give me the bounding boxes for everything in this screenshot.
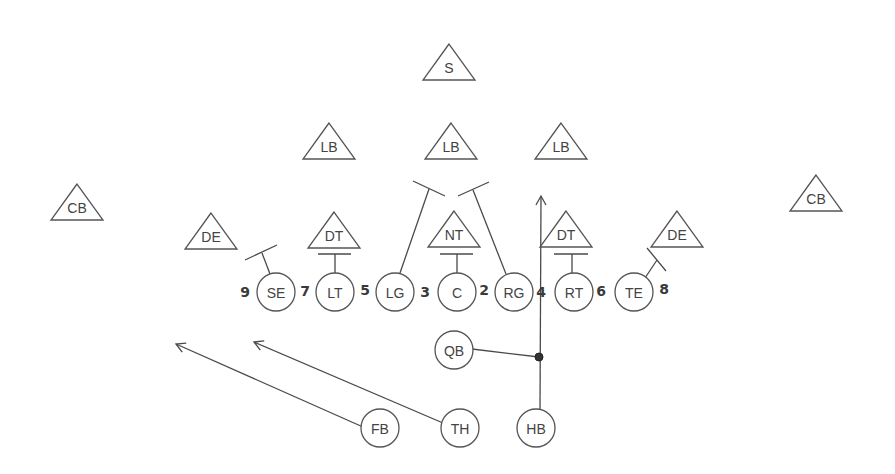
offense-players: SELTLGCRGRTTEQBFBTHHB xyxy=(257,273,653,447)
qb-handoff-line xyxy=(472,349,539,357)
player-hb: HB xyxy=(517,409,555,447)
hole-number: 5 xyxy=(360,282,370,298)
player-label: RT xyxy=(565,285,584,301)
defender-label: CB xyxy=(806,191,825,207)
player-lg: LG xyxy=(376,273,414,311)
player-fb: FB xyxy=(361,409,399,447)
lg-block-line xyxy=(400,189,429,273)
player-qb: QB xyxy=(435,331,473,369)
defender-label: S xyxy=(444,60,453,76)
defender-label: LB xyxy=(442,139,459,155)
player-se: SE xyxy=(257,273,295,311)
hole-number: 8 xyxy=(659,281,669,297)
defender-cb-left: CB xyxy=(51,184,103,220)
player-label: TH xyxy=(451,421,470,437)
handoff-point xyxy=(535,353,543,361)
assignment-lines xyxy=(176,181,666,427)
defender-label: LB xyxy=(320,139,337,155)
player-label: LG xyxy=(386,285,405,301)
player-rt: RT xyxy=(555,273,593,311)
hb-route-arrow xyxy=(540,196,541,410)
defender-label: DE xyxy=(201,229,220,245)
defender-label: DT xyxy=(325,228,344,244)
defense-players: SLBLBLBCBCBDEDTNTDTDE xyxy=(51,44,842,249)
player-lt: LT xyxy=(316,273,354,311)
defender-cb-right: CB xyxy=(790,175,842,211)
player-label: RG xyxy=(504,285,525,301)
defender-lb-middle: LB xyxy=(425,123,477,159)
defender-de-left: DE xyxy=(185,213,237,249)
hole-number: 9 xyxy=(240,284,250,300)
defender-de-right: DE xyxy=(651,211,703,247)
te-block-line xyxy=(645,260,657,278)
fb-route-arrow xyxy=(176,344,363,427)
defender-dt-left: DT xyxy=(308,212,360,248)
player-label: HB xyxy=(526,421,545,437)
th-route-arrow xyxy=(254,342,443,423)
defender-label: CB xyxy=(67,200,86,216)
rg-block-bar xyxy=(458,182,489,196)
defender-label: DT xyxy=(557,227,576,243)
player-label: FB xyxy=(371,421,389,437)
player-label: SE xyxy=(267,285,286,301)
defender-label: LB xyxy=(552,139,569,155)
defender-lb-left: LB xyxy=(303,123,355,159)
hole-number: 4 xyxy=(536,284,546,300)
rg-block-line xyxy=(473,190,506,274)
hole-number: 6 xyxy=(596,283,606,299)
player-label: TE xyxy=(625,285,643,301)
se-block-bar xyxy=(245,245,277,260)
player-th: TH xyxy=(441,409,479,447)
defender-label: NT xyxy=(445,227,464,243)
te-block-bar xyxy=(647,248,666,271)
lg-block-bar xyxy=(413,181,445,196)
defender-label: DE xyxy=(667,227,686,243)
se-block-line xyxy=(262,253,270,274)
player-c: C xyxy=(438,273,476,311)
hole-number: 2 xyxy=(479,282,489,298)
defender-dt-right: DT xyxy=(540,211,592,247)
player-label: LT xyxy=(327,285,343,301)
player-label: C xyxy=(452,285,462,301)
player-te: TE xyxy=(615,273,653,311)
defender-nt: NT xyxy=(428,211,480,247)
hole-number: 7 xyxy=(300,283,310,299)
defender-s: S xyxy=(423,44,475,80)
play-diagram: SLBLBLBCBCBDEDTNTDTDE SELTLGCRGRTTEQBFBT… xyxy=(0,0,895,474)
hole-number: 3 xyxy=(420,284,430,300)
player-label: QB xyxy=(444,343,464,359)
defender-lb-right: LB xyxy=(535,123,587,159)
player-rg: RG xyxy=(495,273,533,311)
